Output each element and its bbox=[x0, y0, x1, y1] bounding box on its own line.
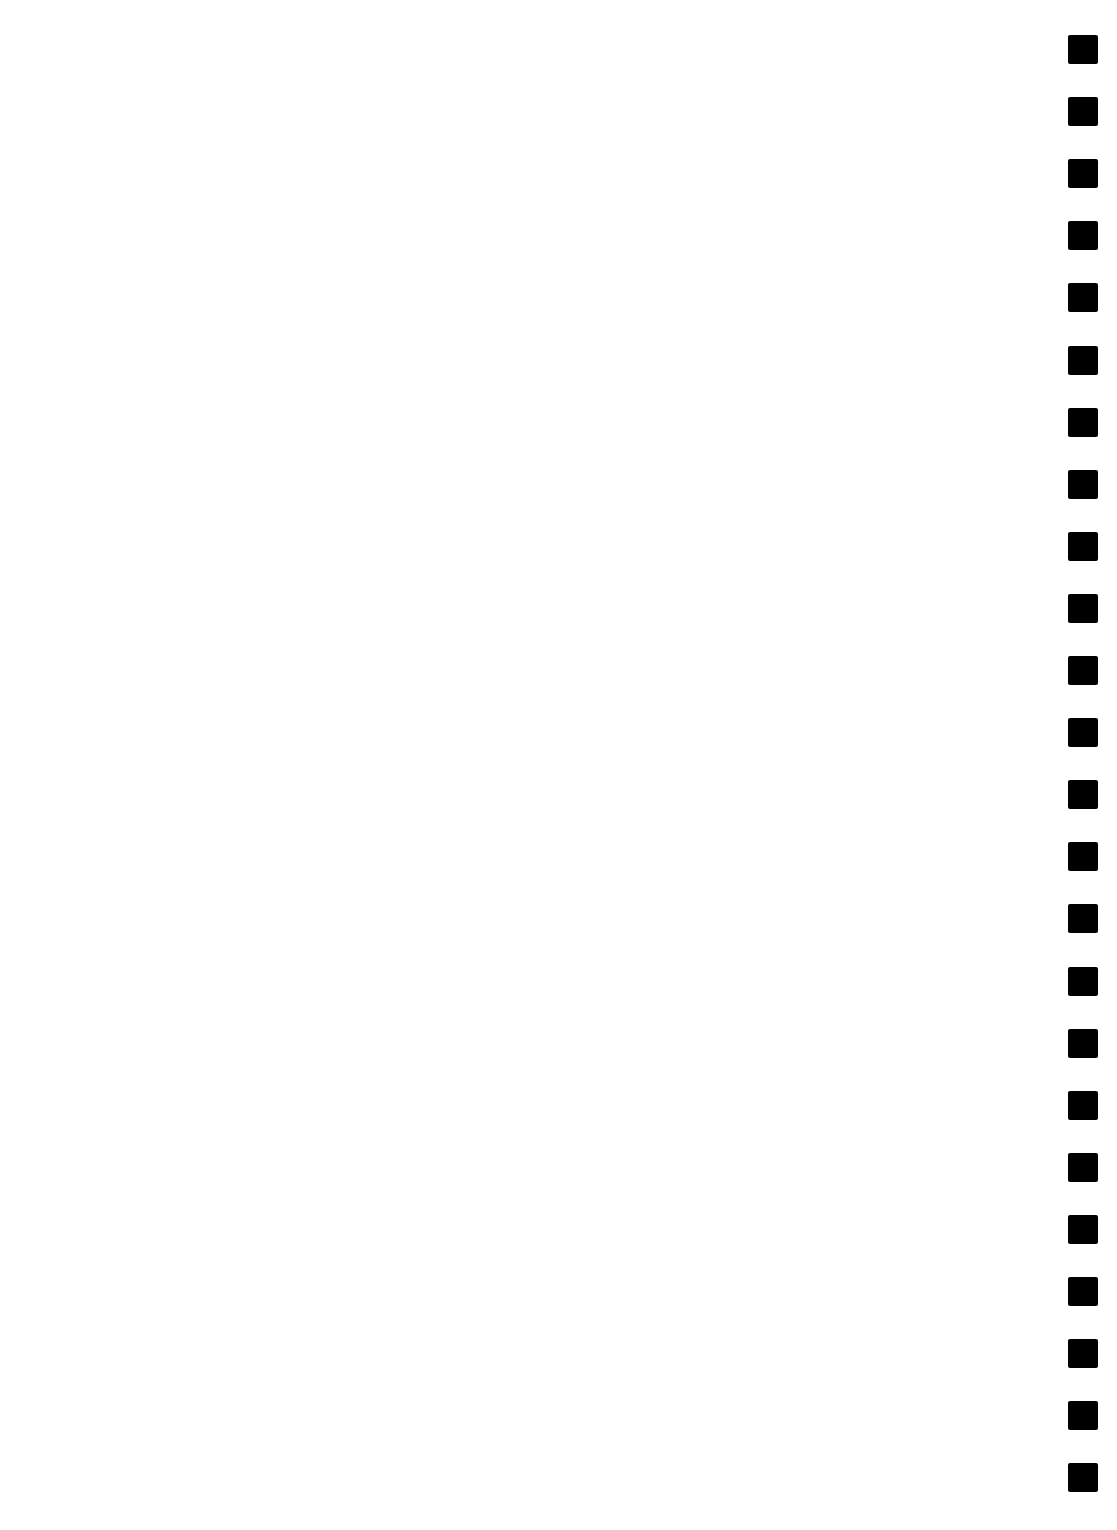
black-square-mark-icon bbox=[1068, 1029, 1098, 1058]
black-square-mark-icon bbox=[1068, 1153, 1098, 1182]
black-square-mark-icon bbox=[1068, 904, 1098, 933]
black-square-mark-icon bbox=[1068, 1401, 1098, 1430]
black-square-mark-icon bbox=[1068, 1091, 1098, 1120]
black-square-mark-icon bbox=[1068, 97, 1098, 126]
black-square-mark-icon bbox=[1068, 656, 1098, 685]
black-square-mark-icon bbox=[1068, 967, 1098, 996]
black-square-mark-icon bbox=[1068, 532, 1098, 561]
black-square-mark-icon bbox=[1068, 221, 1098, 250]
black-square-mark-icon bbox=[1068, 594, 1098, 623]
black-square-mark-icon bbox=[1068, 283, 1098, 312]
black-square-mark-icon bbox=[1068, 718, 1098, 747]
black-square-mark-icon bbox=[1068, 842, 1098, 871]
black-square-mark-icon bbox=[1068, 346, 1098, 375]
black-square-mark-icon bbox=[1068, 1339, 1098, 1368]
black-square-mark-icon bbox=[1068, 159, 1098, 188]
registration-mark-column bbox=[1068, 0, 1098, 1530]
black-square-mark-icon bbox=[1068, 1277, 1098, 1306]
black-square-mark-icon bbox=[1068, 780, 1098, 809]
black-square-mark-icon bbox=[1068, 408, 1098, 437]
black-square-mark-icon bbox=[1068, 470, 1098, 499]
black-square-mark-icon bbox=[1068, 1215, 1098, 1244]
black-square-mark-icon bbox=[1068, 1463, 1098, 1492]
black-square-mark-icon bbox=[1068, 35, 1098, 64]
blank-document-page bbox=[0, 0, 1117, 1530]
